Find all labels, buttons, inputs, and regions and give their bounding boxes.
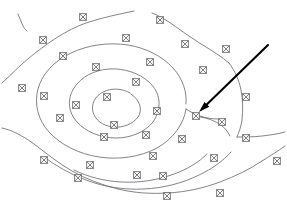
station-marker [217, 190, 224, 197]
contour-line [229, 63, 243, 137]
contour-map-canvas [0, 0, 287, 212]
station-marker [133, 79, 140, 86]
station-marker [182, 41, 189, 48]
station-marker [243, 135, 250, 142]
station-marker [134, 172, 141, 179]
station-marker [211, 155, 218, 162]
station-marker [41, 93, 48, 100]
station-marker [200, 67, 207, 74]
station-marker [87, 162, 94, 169]
station-marker [164, 193, 171, 200]
station-marker [193, 113, 200, 120]
station-marker [60, 53, 67, 60]
station-marker [41, 157, 48, 164]
arrow-shaft [205, 45, 268, 106]
station-marker [154, 108, 161, 115]
station-marker [157, 17, 164, 24]
station-marker [93, 64, 100, 71]
station-marker [19, 85, 26, 92]
station-marker [104, 94, 111, 101]
station-marker [150, 153, 157, 160]
station-marker [219, 119, 226, 126]
station-marker [75, 175, 82, 182]
station-marker [80, 14, 87, 21]
station-marker [179, 136, 186, 143]
contour-line [2, 11, 134, 83]
station-marker [57, 115, 64, 122]
station-marker [123, 35, 130, 42]
station-marker [111, 122, 118, 129]
station-marker [223, 46, 230, 53]
station-marker [73, 102, 80, 109]
station-marker [40, 37, 47, 44]
station-marker [101, 134, 108, 141]
contour-line [18, 14, 27, 31]
station-marker [274, 158, 281, 165]
station-marker [147, 59, 154, 66]
contour-line [36, 44, 186, 158]
station-marker [143, 132, 150, 139]
annotation-arrow-group [199, 45, 268, 112]
station-marker [243, 94, 250, 101]
contour-map-figure [0, 0, 287, 212]
station-marker [160, 173, 167, 180]
station-markers-group [19, 14, 281, 200]
